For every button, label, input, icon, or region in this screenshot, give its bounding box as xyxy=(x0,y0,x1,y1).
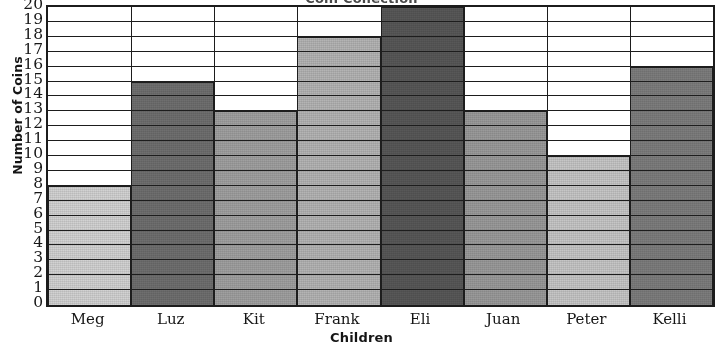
x-axis-title: Children xyxy=(0,330,723,345)
gridline-overlay xyxy=(48,21,713,22)
gridline-overlay xyxy=(48,155,713,156)
x-tick-label-peter: Peter xyxy=(545,310,628,328)
bar-luz[interactable] xyxy=(131,82,214,306)
gridline-overlay xyxy=(48,140,713,141)
gridline-overlay xyxy=(48,215,713,216)
y-tick-label: 0 xyxy=(33,295,43,311)
gridline-overlay xyxy=(48,51,713,52)
gridline-overlay xyxy=(48,259,713,260)
x-tick-label-kelli: Kelli xyxy=(628,310,711,328)
plot-area xyxy=(46,5,715,307)
gridline-overlay xyxy=(48,110,713,111)
gridline-overlay xyxy=(48,200,713,201)
bar-peter[interactable] xyxy=(547,156,630,305)
gridline-overlay xyxy=(48,170,713,171)
bar-chart: Coin Collection Number of Coins 20191817… xyxy=(0,0,723,347)
gridline-overlay xyxy=(48,81,713,82)
gridline-overlay xyxy=(48,125,713,126)
gridline-overlay xyxy=(48,36,713,37)
gridline-overlay xyxy=(48,230,713,231)
x-tick-label-juan: Juan xyxy=(462,310,545,328)
bar-meg[interactable] xyxy=(48,186,131,305)
x-tick-label-luz: Luz xyxy=(129,310,212,328)
gridline-overlay xyxy=(48,274,713,275)
gridline-overlay xyxy=(48,244,713,245)
x-tick-label-kit: Kit xyxy=(212,310,295,328)
gridline-overlay xyxy=(48,185,713,186)
gridline-overlay xyxy=(48,66,713,67)
x-tick-label-frank: Frank xyxy=(295,310,378,328)
bar-frank[interactable] xyxy=(297,37,380,305)
x-tick-label-meg: Meg xyxy=(46,310,129,328)
x-tick-label-eli: Eli xyxy=(379,310,462,328)
gridline-overlay xyxy=(48,95,713,96)
gridline-overlay xyxy=(48,289,713,290)
y-axis-tick-labels: 20191817161514131211109876543210 xyxy=(0,0,46,347)
